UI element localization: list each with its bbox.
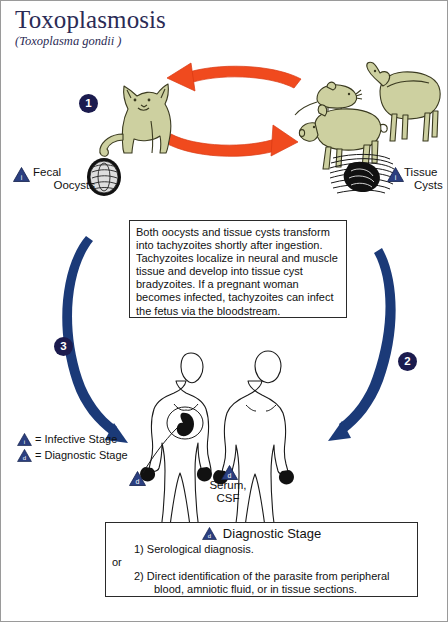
diagnostic-stage-triangle-icon: d [221, 465, 238, 480]
infective-stage-triangle-icon: i [13, 167, 30, 182]
tissue-cysts-label: Tissue Cysts [404, 166, 448, 192]
diagnostic-line-2: 2) Direct identification of the parasite… [112, 570, 411, 584]
fecal-label-line1: Fecal [33, 166, 95, 179]
diagnostic-line-or: or [112, 556, 411, 570]
diagnostic-stage-heading-text: Diagnostic Stage [223, 526, 321, 541]
diagnostic-stage-box: d Diagnostic Stage 1) Serological diagno… [105, 522, 418, 597]
stage-number-1: 1 [79, 94, 98, 113]
diagnostic-line-2b: blood, amniotic fluid, or in tissue sect… [112, 583, 411, 597]
diagnostic-stage-triangle-icon: d [129, 471, 146, 486]
tissue-label-line2: Cysts [404, 179, 448, 192]
diagnostic-line-1: 1) Serological diagnosis. [112, 543, 411, 557]
svg-text:i: i [24, 439, 25, 445]
serum-label-line1: Serum, [204, 479, 252, 492]
fecal-label-line2: Oocysts [33, 179, 95, 192]
pregnant-human-figure [140, 353, 212, 535]
svg-text:d: d [23, 455, 26, 461]
infective-stage-triangle-icon: i [387, 167, 404, 182]
legend-label-infective: = Infective Stage [35, 433, 117, 445]
diagnostic-stage-triangle-icon: d [202, 527, 216, 540]
serum-label-line2: CSF [204, 492, 252, 505]
center-note-text: Both oocysts and tissue cysts transform … [136, 226, 338, 317]
stage-number-2: 2 [398, 352, 417, 371]
tissue-label-line1: Tissue [404, 166, 448, 179]
serum-csf-label: Serum, CSF [204, 479, 252, 504]
svg-text:d: d [208, 533, 211, 539]
orange-arrow-bottom [164, 125, 298, 156]
stage-number-3: 3 [54, 337, 73, 356]
toxoplasmosis-life-cycle-diagram: Toxoplasmosis (Toxoplasma gondii ) .an {… [0, 0, 448, 622]
legend-row-infective: i = Infective Stage [17, 431, 128, 447]
human-figure [213, 351, 294, 536]
orange-arrow-top [167, 63, 301, 91]
svg-text:d: d [136, 478, 140, 485]
cat-illustration [100, 84, 171, 156]
diagnostic-stage-heading: d Diagnostic Stage [112, 527, 411, 541]
diagnostic-stage-triangle-icon: d [17, 449, 31, 462]
fecal-oocysts-label: Fecal Oocysts [33, 166, 95, 192]
blue-arrow-3 [62, 236, 128, 443]
legend-label-diagnostic: = Diagnostic Stage [35, 449, 128, 461]
infective-stage-triangle-icon: i [17, 433, 31, 446]
center-note-box: Both oocysts and tissue cysts transform … [129, 220, 347, 318]
legend-row-diagnostic: d = Diagnostic Stage [17, 447, 128, 463]
legend: i = Infective Stage d = Diagnostic Stage [17, 431, 128, 463]
